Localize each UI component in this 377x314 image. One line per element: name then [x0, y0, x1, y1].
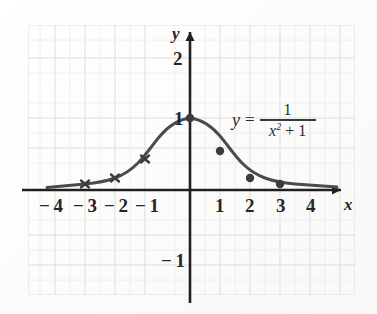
x-tick-label-3: 3 — [276, 196, 285, 215]
x-tick-label-minus-2: − 2 — [104, 196, 128, 215]
math-graph-figure: y x − 4 − 3 − 2 − 1 1 2 3 4 2 1 − 1 y = … — [0, 0, 377, 314]
denominator-exponent: 2 — [276, 121, 281, 132]
x-tick-label-minus-1: − 1 — [135, 196, 159, 215]
fraction-bar — [260, 119, 316, 121]
x-tick-label-2: 2 — [245, 196, 254, 215]
equation-numerator: 1 — [281, 101, 295, 118]
graph-canvas — [0, 0, 377, 314]
marker-dot-x-3 — [276, 180, 284, 188]
equation-fraction: 1 x2 + 1 — [260, 101, 316, 139]
marker-dot-x-1 — [216, 147, 224, 155]
marker-dot-x-2 — [246, 174, 254, 182]
x-tick-label-1: 1 — [215, 196, 224, 215]
grid-lines — [28, 25, 355, 295]
y-tick-label-minus-1: − 1 — [161, 251, 185, 270]
denominator-rest: + 1 — [285, 122, 306, 139]
y-tick-label-2: 2 — [173, 49, 182, 68]
equation-lhs: y — [232, 110, 240, 131]
equation-annotation: y = 1 x2 + 1 — [232, 101, 316, 139]
x-tick-label-4: 4 — [306, 196, 315, 215]
y-axis-name: y — [172, 25, 180, 42]
y-axis-arrowhead — [185, 32, 194, 41]
x-tick-label-minus-4: − 4 — [39, 196, 63, 215]
x-axis-name: x — [344, 196, 353, 213]
equation-denominator: x2 + 1 — [266, 122, 309, 140]
equation-relation: = — [245, 110, 255, 130]
y-tick-label-1: 1 — [174, 109, 183, 128]
x-tick-label-minus-3: − 3 — [73, 196, 97, 215]
marker-dot-x-0 — [186, 114, 194, 122]
